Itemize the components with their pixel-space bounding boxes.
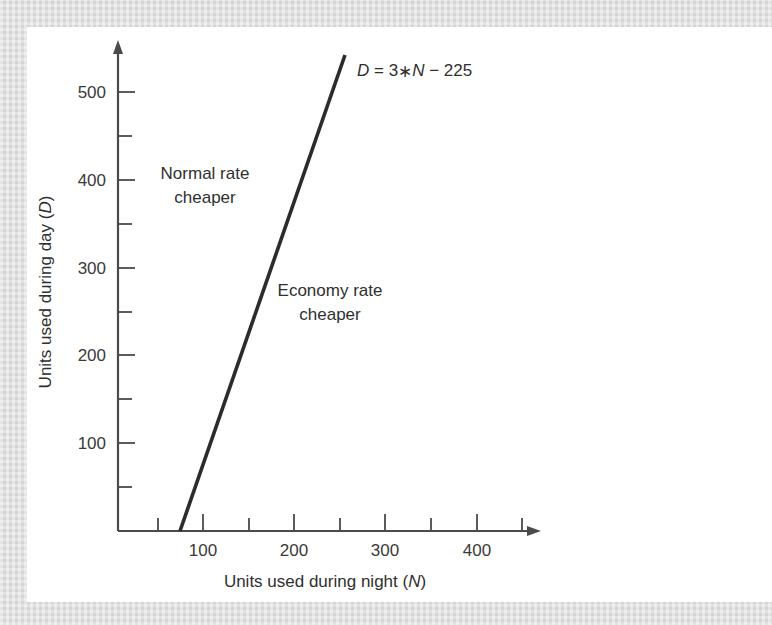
x-tick-label-200: 200 xyxy=(280,541,308,560)
figure-canvas: 100 200 300 400 500 100 200 300 400 Unit… xyxy=(27,27,772,602)
equation-label: D = 3∗N − 225 xyxy=(357,61,472,81)
y-axis-arrowhead xyxy=(113,40,123,54)
y-tick-label-100: 100 xyxy=(78,434,106,453)
economy-rate-region-label: Economy rate cheaper xyxy=(278,281,383,324)
equation-minus: − xyxy=(429,61,439,80)
y-axis-title-symbol: D xyxy=(36,201,55,213)
y-tick-label-400: 400 xyxy=(78,171,106,190)
equation-constant: 225 xyxy=(444,61,472,80)
x-axis-title-symbol: N xyxy=(408,572,421,591)
equation-star: ∗ xyxy=(398,62,412,81)
equation-coefficient: 3 xyxy=(389,61,398,80)
y-tick-label-300: 300 xyxy=(78,259,106,278)
economy-rate-line2: cheaper xyxy=(299,305,361,324)
y-axis-title-text: Units used during day xyxy=(36,223,55,388)
normal-rate-line1: Normal rate xyxy=(161,164,250,183)
y-axis-title: Units used during day (D) xyxy=(36,196,55,389)
economy-rate-line1: Economy rate xyxy=(278,281,383,300)
line-chart: 100 200 300 400 500 100 200 300 400 Unit… xyxy=(27,27,772,602)
normal-rate-line2: cheaper xyxy=(174,188,236,207)
y-tick-labels: 100 200 300 400 500 xyxy=(78,83,106,453)
x-tick-labels: 100 200 300 400 xyxy=(189,541,491,560)
y-tick-label-200: 200 xyxy=(78,346,106,365)
equation-variable: N xyxy=(412,61,425,80)
x-axis-title-text: Units used during night xyxy=(224,572,398,591)
x-axis-ticks xyxy=(158,514,522,531)
y-tick-label-500: 500 xyxy=(78,83,106,102)
x-tick-label-400: 400 xyxy=(463,541,491,560)
x-tick-label-100: 100 xyxy=(189,541,217,560)
x-axis-arrowhead xyxy=(527,526,541,536)
x-axis-title: Units used during night (N) xyxy=(224,572,426,591)
x-tick-label-300: 300 xyxy=(371,541,399,560)
equation-lhs: D xyxy=(357,61,369,80)
y-axis-ticks xyxy=(118,92,135,487)
screenshot-root: 100 200 300 400 500 100 200 300 400 Unit… xyxy=(0,0,772,625)
equation-equals: = xyxy=(374,61,384,80)
normal-rate-region-label: Normal rate cheaper xyxy=(161,164,250,207)
